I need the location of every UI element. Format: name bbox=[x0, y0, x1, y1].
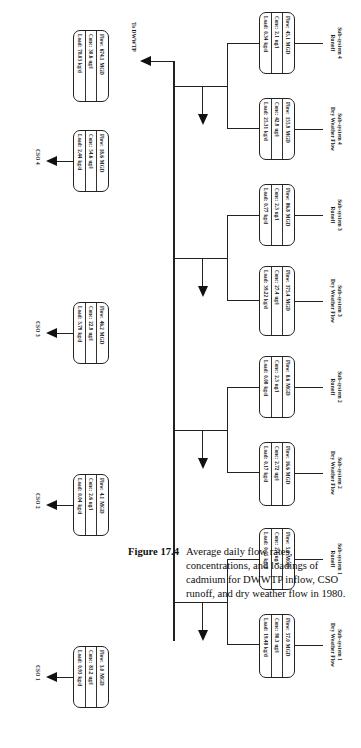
conc-value: 30.6 bbox=[88, 49, 94, 58]
flow-key: Flow: bbox=[99, 650, 105, 663]
flow-value: 45.1 bbox=[285, 31, 291, 40]
flow-unit: MGD bbox=[99, 62, 105, 75]
dwwtp-stem bbox=[149, 61, 175, 62]
cso3-outlet-arrow-icon bbox=[46, 328, 57, 338]
lane-stream: Dry Weather Flow bbox=[328, 436, 335, 510]
conc-value: 90.3 bbox=[274, 633, 280, 642]
lane-system: Sub-system 2 bbox=[337, 371, 343, 403]
flow-unit: MGD bbox=[285, 130, 291, 143]
lane-stream: Runoff bbox=[328, 178, 335, 252]
load-unit: kg/d bbox=[263, 131, 269, 141]
databox-s3-runoff: Flow: 86.8 MGD Conc: 2.3 ug/l Load: 0.77… bbox=[259, 184, 295, 246]
cso3-arrow-icon bbox=[198, 286, 208, 297]
trunk-drop-s1 bbox=[175, 602, 203, 603]
cso1-outlet-arrow-icon bbox=[46, 672, 57, 682]
flow-unit: MGD bbox=[285, 298, 291, 311]
conc-value: 42.9 bbox=[274, 117, 280, 126]
conc-unit: ug/l bbox=[274, 128, 280, 136]
flow-unit: MGD bbox=[285, 383, 291, 396]
cso1-takeoff-line bbox=[202, 602, 203, 632]
load-key: Load: bbox=[263, 360, 269, 373]
junction-stem-s2 bbox=[203, 430, 227, 431]
conc-unit: ug/l bbox=[88, 160, 94, 168]
load-unit: kg/d bbox=[263, 386, 269, 396]
databox-row-conc: Conc: 2.1 ug/l bbox=[272, 529, 283, 589]
lane-stream: Runoff bbox=[328, 6, 335, 80]
cso3-output-label: CSO 3 bbox=[35, 321, 41, 337]
conc-unit: ug/l bbox=[274, 556, 280, 564]
flow-key: Flow: bbox=[285, 446, 291, 459]
feed-stem-s4-runoff bbox=[295, 43, 323, 44]
lane-system: Sub-system 3 bbox=[337, 285, 343, 317]
feed-stem-s2-runoff bbox=[295, 387, 323, 388]
databox-row-conc: Conc: 27.4 ug/l bbox=[272, 267, 283, 335]
databox-row-conc: Conc: 54.6 ug/l bbox=[86, 131, 97, 191]
databox-row-load: Load: 25.31 kg/d bbox=[261, 99, 272, 159]
cso2-outlet-stem bbox=[55, 505, 73, 506]
databox-row-flow: Flow: 18.6 MGD bbox=[97, 131, 107, 191]
conc-key: Conc: bbox=[88, 478, 94, 491]
conc-value: 22.9 bbox=[88, 321, 94, 330]
lane-label-s2-dwf: Sub-system 2 Dry Weather Flow bbox=[328, 436, 343, 510]
databox-cso1: Flow: 3.0 MGD Conc: 83.2 ug/l Load: 0.93… bbox=[73, 646, 109, 708]
flow-unit: MGD bbox=[285, 472, 291, 485]
databox-row-load: Load: 0.93 kg/d bbox=[75, 647, 86, 707]
lane-label-s4-dwf: Sub-system 4 Dry Weather Flow bbox=[328, 92, 343, 166]
flow-key: Flow: bbox=[285, 102, 291, 115]
flow-unit: MGD bbox=[99, 501, 105, 514]
cso3-outlet-stem bbox=[55, 333, 73, 334]
load-unit: kg/d bbox=[77, 63, 83, 73]
flow-unit: MGD bbox=[99, 673, 105, 686]
flow-value: 155.9 bbox=[285, 117, 291, 129]
conc-key: Conc: bbox=[274, 618, 280, 631]
databox-row-load: Load: 19.48 kg/d bbox=[261, 615, 272, 677]
cso2-takeoff-line bbox=[202, 430, 203, 460]
databox-row-load: Load: 0.08 kg/d bbox=[261, 357, 272, 417]
lane-system: Sub-system 4 bbox=[337, 27, 343, 59]
conc-value: 83.2 bbox=[88, 665, 94, 674]
load-value: 39.22 bbox=[263, 285, 269, 297]
load-unit: kg/d bbox=[263, 647, 269, 657]
trunk-drop-s3 bbox=[175, 258, 203, 259]
conc-key: Conc: bbox=[88, 650, 94, 663]
conc-unit: ug/l bbox=[88, 332, 94, 340]
load-value: 78.03 bbox=[77, 49, 83, 61]
feed-stem-s2-dwf bbox=[295, 473, 323, 474]
databox-s1-dwf: Flow: 57.0 MGD Conc: 90.3 ug/l Load: 19.… bbox=[259, 614, 295, 678]
conc-unit: ug/l bbox=[274, 384, 280, 392]
rotated-figure-stage: Sub-system 4 Runoff Sub-system 4 Dry Wea… bbox=[0, 0, 361, 748]
feed-stem-s4-dwf bbox=[295, 129, 323, 130]
load-key: Load: bbox=[263, 270, 269, 283]
databox-s4-runoff: Flow: 45.1 MGD Conc: 2.1 ug/l Load: 0.34… bbox=[259, 12, 295, 74]
databox-row-conc: Conc: 90.3 ug/l bbox=[272, 615, 283, 677]
databox-row-load: Load: 0.77 kg/d bbox=[261, 185, 272, 245]
load-key: Load: bbox=[263, 188, 269, 201]
flow-unit: MGD bbox=[285, 644, 291, 657]
flow-value: 16.6 bbox=[285, 461, 291, 470]
load-key: Load: bbox=[263, 16, 269, 29]
conc-value: 2.3 bbox=[274, 203, 280, 210]
flow-key: Flow: bbox=[285, 270, 291, 283]
cso4-takeoff-line bbox=[202, 86, 203, 116]
conc-unit: ug/l bbox=[274, 472, 280, 480]
databox-row-flow: Flow: 375.4 MGD bbox=[283, 267, 293, 335]
lane-stream: Dry Weather Flow bbox=[328, 92, 335, 166]
flow-key: Flow: bbox=[285, 16, 291, 29]
load-value: 2.44 bbox=[77, 149, 83, 158]
databox-row-conc: Conc: 2.3 ug/l bbox=[272, 185, 283, 245]
load-key: Load: bbox=[263, 618, 269, 631]
load-unit: kg/d bbox=[77, 676, 83, 686]
conc-value: 2.72 bbox=[274, 461, 280, 470]
feed-stem-s1-runoff bbox=[295, 559, 323, 560]
load-value: 25.31 bbox=[263, 117, 269, 129]
flow-key: Flow: bbox=[285, 188, 291, 201]
databox-cso2: Flow: 4.1 MGD Conc: 2.6 ug/l Load: 0.04 … bbox=[73, 474, 109, 536]
databox-row-load: Load: 39.22 kg/d bbox=[261, 267, 272, 335]
junction-stem-s1 bbox=[203, 602, 227, 603]
flow-value: 4.1 bbox=[99, 493, 105, 500]
lane-label-s4-runoff: Sub-system 4 Runoff bbox=[328, 6, 343, 80]
databox-row-load: Load: 3.79 kg/d bbox=[75, 303, 86, 363]
flow-value: 8.6 bbox=[285, 375, 291, 382]
conc-key: Conc: bbox=[88, 34, 94, 47]
databox-row-conc: Conc: 42.9 ug/l bbox=[272, 99, 283, 159]
